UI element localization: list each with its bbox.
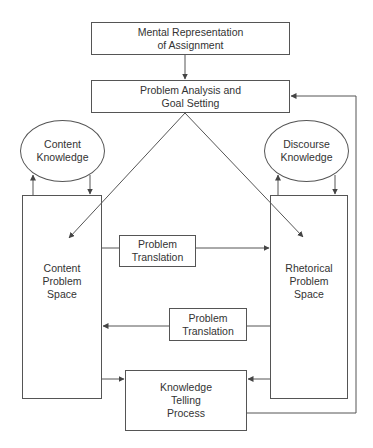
- content-knowledge-label: Content Knowledge: [37, 138, 89, 164]
- problem-translation-upper-box: Problem Translation: [119, 235, 196, 267]
- discourse-knowledge-label: Discourse Knowledge: [281, 138, 333, 164]
- knowledge-telling-process-box: Knowledge Telling Process: [125, 370, 247, 431]
- rhetorical-problem-space-label: Rhetorical Problem Space: [285, 262, 332, 301]
- mental-representation-label: Mental Representation of Assignment: [138, 26, 244, 52]
- discourse-knowledge-ellipse: Discourse Knowledge: [264, 120, 349, 182]
- problem-translation-upper-label: Problem Translation: [132, 238, 184, 264]
- knowledge-telling-process-label: Knowledge Telling Process: [160, 381, 212, 420]
- problem-analysis-label: Problem Analysis and Goal Setting: [140, 84, 241, 110]
- mental-representation-box: Mental Representation of Assignment: [91, 22, 290, 55]
- content-knowledge-ellipse: Content Knowledge: [20, 120, 105, 182]
- content-problem-space-label: Content Problem Space: [42, 262, 81, 301]
- rhetorical-problem-space-box: Rhetorical Problem Space: [270, 195, 348, 399]
- problem-translation-lower-label: Problem Translation: [182, 312, 234, 338]
- problem-translation-lower-box: Problem Translation: [169, 308, 247, 341]
- problem-analysis-box: Problem Analysis and Goal Setting: [91, 80, 290, 113]
- content-problem-space-box: Content Problem Space: [22, 195, 102, 399]
